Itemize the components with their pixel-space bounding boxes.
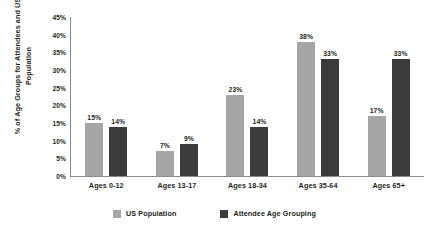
bar-group: 38%33%: [283, 17, 354, 176]
bar-group-bars: 7%9%: [142, 17, 213, 176]
y-axis-tick-label: 20%: [36, 102, 66, 109]
bar-group-bars: 17%33%: [353, 17, 424, 176]
bar-item[interactable]: 23%: [226, 17, 244, 176]
y-axis-tick-label: 45%: [36, 14, 66, 21]
bar-item[interactable]: 17%: [368, 17, 386, 176]
legend-label: Attendee Age Grouping: [233, 209, 316, 218]
bar[interactable]: [109, 127, 127, 176]
bar-value-label: 14%: [253, 118, 267, 125]
bar-group-bars: 15%14%: [71, 17, 142, 176]
bar-item[interactable]: 9%: [180, 17, 198, 176]
legend-item[interactable]: US Population: [113, 209, 176, 218]
bar[interactable]: [180, 144, 198, 176]
y-axis-tick-label: 30%: [36, 67, 66, 74]
x-axis-category-label: Ages 0-12: [71, 181, 142, 190]
bar-item[interactable]: 7%: [156, 17, 174, 176]
bar-group: 17%33%: [353, 17, 424, 176]
bar-value-label: 17%: [370, 107, 384, 114]
legend-color-swatch: [220, 210, 228, 218]
bar[interactable]: [250, 127, 268, 176]
bar-value-label: 9%: [184, 135, 194, 142]
legend-item[interactable]: Attendee Age Grouping: [220, 209, 316, 218]
x-axis-category-label: Ages 35-64: [283, 181, 354, 190]
bar-value-label: 33%: [323, 50, 337, 57]
bar-item[interactable]: 33%: [321, 17, 339, 176]
bar-group-bars: 23%14%: [212, 17, 283, 176]
bar-item[interactable]: 14%: [250, 17, 268, 176]
x-axis-category-label: Ages 65+: [353, 181, 424, 190]
bar[interactable]: [392, 59, 410, 176]
bar-value-label: 38%: [299, 33, 313, 40]
bar-group: 23%14%: [212, 17, 283, 176]
bar-value-label: 7%: [160, 142, 170, 149]
bar[interactable]: [156, 151, 174, 176]
bar-group: 7%9%: [142, 17, 213, 176]
bar[interactable]: [226, 95, 244, 176]
bar[interactable]: [297, 42, 315, 176]
y-axis-tick-labels: 0%5%10%15%20%25%30%35%40%45%: [36, 14, 66, 180]
legend-label: US Population: [126, 209, 176, 218]
bar[interactable]: [321, 59, 339, 176]
y-axis-tick-label: 40%: [36, 31, 66, 38]
y-axis-tick-label: 0%: [36, 173, 66, 180]
bar-item[interactable]: 14%: [109, 17, 127, 176]
bar-value-label: 23%: [229, 86, 243, 93]
legend-color-swatch: [113, 210, 121, 218]
y-axis-tick-label: 15%: [36, 120, 66, 127]
bar-group: 15%14%: [71, 17, 142, 176]
bar[interactable]: [85, 123, 103, 176]
y-axis-tick-label: 35%: [36, 49, 66, 56]
y-axis-tick-label: 10%: [36, 137, 66, 144]
x-axis-line: [70, 176, 424, 177]
x-axis-category-label: Ages 18-34: [212, 181, 283, 190]
y-axis-tick-label: 5%: [36, 155, 66, 162]
chart-legend: US PopulationAttendee Age Grouping: [0, 209, 429, 218]
plot-area: 15%14%7%9%23%14%38%33%17%33%: [71, 17, 424, 176]
bar-item[interactable]: 15%: [85, 17, 103, 176]
bar-group-bars: 38%33%: [283, 17, 354, 176]
bar-item[interactable]: 38%: [297, 17, 315, 176]
bar[interactable]: [368, 116, 386, 176]
bar-value-label: 15%: [87, 114, 101, 121]
bar-item[interactable]: 33%: [392, 17, 410, 176]
y-axis-tick-label: 25%: [36, 84, 66, 91]
x-axis-category-label: Ages 13-17: [142, 181, 213, 190]
bar-value-label: 14%: [111, 118, 125, 125]
bar-value-label: 33%: [394, 50, 408, 57]
bar-chart: % of Age Groups for Attendees and US Pop…: [0, 0, 429, 236]
